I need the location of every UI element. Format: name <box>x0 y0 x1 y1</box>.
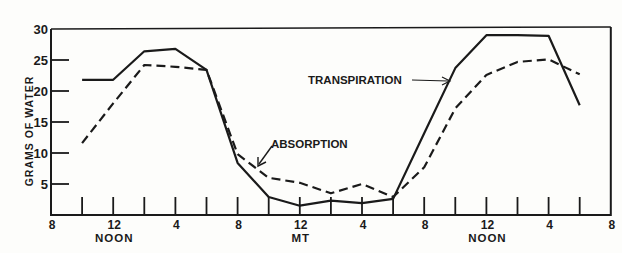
x-tick-label: 4 <box>360 218 367 232</box>
x-tick-label: 4 <box>173 218 180 232</box>
transpiration-line <box>82 35 580 206</box>
x-tick-sublabel: MT <box>291 232 310 244</box>
y-tick-label: 15 <box>34 115 48 130</box>
x-tick-sublabel: NOON <box>468 232 507 244</box>
x-tick-label: 12 <box>481 218 495 232</box>
y-tick-label: 25 <box>34 53 48 68</box>
x-tick-label: 8 <box>422 218 429 232</box>
chart-canvas: 51015202530 812NOON4812MT4812NOON48 TRAN… <box>0 0 622 253</box>
top-border <box>51 27 611 29</box>
x-axis-ticks: 812NOON4812MT4812NOON48 <box>49 197 616 244</box>
transpiration-arrow <box>412 80 448 81</box>
annotations: TRANSPIRATIONABSORPTION <box>258 74 450 166</box>
x-tick-label: 8 <box>49 218 56 232</box>
x-tick-label: 8 <box>608 218 615 232</box>
line-chart: 51015202530 812NOON4812MT4812NOON48 TRAN… <box>0 0 622 253</box>
axes <box>51 27 611 215</box>
y-tick-label: 30 <box>34 22 48 37</box>
transpiration-label: TRANSPIRATION <box>308 74 402 86</box>
x-tick-label: 8 <box>235 218 242 232</box>
y-tick-label: 20 <box>34 84 48 99</box>
x-tick-label: 4 <box>546 218 553 232</box>
x-tick-sublabel: NOON <box>95 232 134 244</box>
data-lines <box>82 35 580 206</box>
absorption-arrowhead <box>258 157 266 166</box>
y-tick-label: 5 <box>41 177 48 192</box>
absorption-label: ABSORPTION <box>271 138 348 150</box>
absorption-arrow <box>259 146 272 164</box>
x-tick-label: 12 <box>294 218 308 232</box>
x-tick-label: 12 <box>108 218 122 232</box>
y-axis-label: GRAMS OF WATER <box>23 76 35 187</box>
y-tick-label: 10 <box>34 146 48 161</box>
axis-frame <box>51 27 611 215</box>
